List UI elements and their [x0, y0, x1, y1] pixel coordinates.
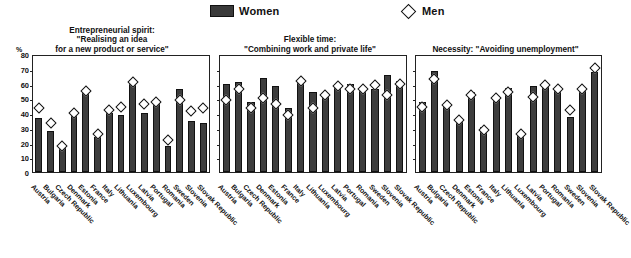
bar-slot: [465, 56, 477, 172]
bar-women: [542, 84, 549, 172]
bar-women: [129, 82, 136, 172]
bar-women: [297, 81, 304, 172]
chart-panel-necessity: Necessity: "Avoiding unemployment" Austr…: [409, 24, 602, 258]
y-axis-tick-label: 80: [21, 51, 29, 60]
x-axis-tick-labels: AustriaBulgariaCzech RepublicDenmarkEsto…: [14, 183, 210, 258]
y-axis-tick-mark: [217, 130, 220, 131]
y-axis-tick-mark: [30, 86, 33, 87]
bar-slot: [441, 56, 453, 172]
bar-slot: [270, 56, 282, 172]
bar-slot: [478, 56, 490, 172]
bar-slot: [294, 56, 306, 172]
legend-swatch-women-bar: [210, 5, 234, 17]
bar-slot: [139, 56, 151, 172]
plot-wrapper: [409, 55, 602, 183]
plot-wrapper: [213, 55, 407, 183]
y-axis-tick-label: 10: [21, 154, 29, 163]
bar-women: [579, 88, 586, 172]
bar-women: [419, 102, 426, 172]
bar-slot: [515, 56, 527, 172]
bar-slot: [220, 56, 232, 172]
plot-area: [32, 55, 210, 173]
bar-slot: [282, 56, 294, 172]
y-axis-tick-mark: [30, 145, 33, 146]
bar-women: [493, 97, 500, 172]
bar-slot: [539, 56, 551, 172]
bar-women: [94, 137, 101, 172]
bar-women: [47, 131, 54, 172]
x-axis-tick-labels: AustriaBulgariaCzech RepublicDenmarkEsto…: [409, 183, 602, 258]
y-axis-tick-mark: [30, 100, 33, 101]
bar-slot: [174, 56, 186, 172]
panel-title: Entrepreneurial spirit: "Realising an id…: [14, 24, 210, 55]
bar-slot: [576, 56, 588, 172]
chart-panel-flexible-time: Flexible time: "Combining work and priva…: [213, 24, 407, 258]
plot-area: [415, 55, 602, 173]
bar-women: [505, 88, 512, 172]
bar-slot: [103, 56, 115, 172]
bar-slot: [80, 56, 92, 172]
bar-slot: [527, 56, 539, 172]
bar-women: [371, 89, 378, 172]
marker-men: [139, 98, 150, 109]
y-axis-tick-mark: [217, 100, 220, 101]
marker-men: [115, 101, 126, 112]
plot-area: [219, 55, 407, 173]
bar-women: [431, 71, 438, 173]
bar-slot: [381, 56, 393, 172]
legend-item-men: Men: [400, 5, 445, 17]
bar-women: [235, 82, 242, 172]
plot-wrapper: % 80706050403020100: [14, 55, 210, 183]
y-axis-tick-mark: [30, 71, 33, 72]
bar-slot: [162, 56, 174, 172]
marker-men: [197, 103, 208, 114]
y-axis-tick-label: 60: [21, 80, 29, 89]
y-axis-tick-mark: [217, 115, 220, 116]
y-axis-tick-mark: [413, 71, 416, 72]
y-axis-tick-mark: [413, 145, 416, 146]
y-axis-tick-label: 70: [21, 65, 29, 74]
bar-slot: [453, 56, 465, 172]
bar-group: [33, 56, 209, 172]
y-axis-tick-label: 40: [21, 110, 29, 119]
bar-slot: [564, 56, 576, 172]
y-axis-tick-mark: [217, 145, 220, 146]
marker-men: [186, 105, 197, 116]
bar-slot: [150, 56, 162, 172]
bar-slot: [115, 56, 127, 172]
bar-women: [359, 88, 366, 172]
bar-group: [220, 56, 406, 172]
bar-slot: [127, 56, 139, 172]
bar-slot: [33, 56, 45, 172]
bar-women: [35, 118, 42, 172]
panel-title: Flexible time: "Combining work and priva…: [213, 24, 407, 55]
bar-women: [591, 72, 598, 172]
bar-group: [416, 56, 601, 172]
legend-label-women: Women: [239, 5, 280, 17]
chart-legend: Women Men: [0, 2, 602, 22]
bar-slot: [232, 56, 244, 172]
bar-women: [567, 117, 574, 172]
bar-slot: [589, 56, 601, 172]
bar-slot: [307, 56, 319, 172]
marker-men: [564, 104, 575, 115]
bar-women: [118, 115, 125, 172]
bar-women: [106, 113, 113, 172]
bar-women: [456, 118, 463, 172]
bar-women: [347, 84, 354, 172]
bar-slot: [552, 56, 564, 172]
y-axis-tick-mark: [30, 130, 33, 131]
panel-title: Necessity: "Avoiding unemployment": [409, 24, 602, 55]
bar-slot: [257, 56, 269, 172]
marker-men: [33, 103, 44, 114]
y-axis-tick-mark: [217, 86, 220, 87]
bar-slot: [502, 56, 514, 172]
y-axis-tick-mark: [217, 159, 220, 160]
legend-label-men: Men: [422, 5, 445, 17]
bar-slot: [56, 56, 68, 172]
y-axis-tick-labels: 80706050403020100: [14, 55, 30, 173]
y-axis-tick-mark: [30, 115, 33, 116]
x-axis-tick-labels: AustriaBulgariaCzech RepublicDenmarkEsto…: [213, 183, 407, 258]
bar-women: [82, 91, 89, 172]
y-axis-tick-mark: [413, 115, 416, 116]
